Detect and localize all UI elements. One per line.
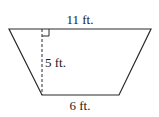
right-angle-marker-icon: [42, 29, 49, 36]
height-label: 5 ft.: [45, 55, 66, 70]
bottom-base-label: 6 ft.: [70, 98, 91, 113]
trapezoid-diagram: 11 ft. 5 ft. 6 ft.: [0, 0, 159, 117]
trapezoid-outline: [9, 29, 151, 95]
trapezoid-shape: [9, 29, 151, 95]
top-base-label: 11 ft.: [67, 12, 94, 27]
